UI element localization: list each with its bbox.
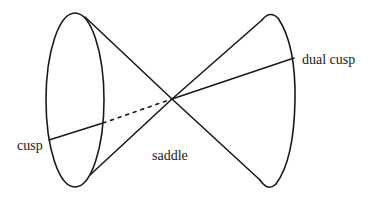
right-cone-base-curve	[260, 14, 295, 187]
dual-cusp-label: dual cusp	[302, 52, 355, 67]
right-cone-upper-edge	[172, 20, 262, 99]
left-cone-base-ellipse	[46, 13, 104, 187]
right-cone-lower-edge	[172, 99, 260, 180]
cusp-line	[49, 123, 103, 140]
hidden-line	[103, 99, 172, 123]
left-cone-upper-edge	[85, 17, 172, 99]
dual-cusp-line	[172, 58, 294, 99]
left-cone-lower-edge	[90, 99, 172, 175]
cusp-label: cusp	[17, 138, 43, 153]
double-cone-diagram: cusp saddle dual cusp	[0, 0, 374, 198]
saddle-label: saddle	[152, 148, 188, 163]
